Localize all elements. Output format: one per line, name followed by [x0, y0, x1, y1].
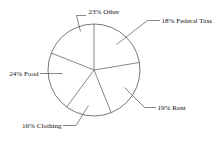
slice-label-clothing: 16% Clothing [22, 122, 62, 130]
divider-rent-clothing [94, 70, 111, 113]
slice-label-other: 23% Other [89, 8, 121, 16]
pie-chart-svg: 23% Other 18% Federal Taxes 19% Rent 16%… [0, 0, 212, 151]
leader-line-clothing [63, 106, 89, 126]
pie-chart-container: 23% Other 18% Federal Taxes 19% Rent 16%… [0, 0, 212, 151]
leader-lines [40, 16, 160, 126]
slice-label-rent: 19% Rent [158, 104, 186, 112]
leader-line-rent [125, 88, 157, 108]
leader-line-other [77, 16, 87, 32]
divider-federal-rent [94, 63, 139, 71]
slice-label-federal-taxes: 18% Federal Taxes [162, 17, 213, 25]
divider-clothing-food [67, 70, 94, 107]
slice-label-food: 24% Food [9, 70, 39, 78]
divider-food-other [51, 53, 94, 70]
leader-line-federal-taxes [117, 21, 161, 45]
